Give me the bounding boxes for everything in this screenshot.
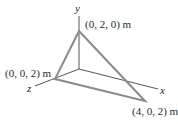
vertex-label-c: (4, 0, 2) m xyxy=(132,106,178,117)
coordinate-diagram: y x z (0, 2, 0) m (0, 0, 2) m (4, 0, 2) … xyxy=(0,0,178,124)
z-axis-label: z xyxy=(27,83,31,94)
y-axis-label: y xyxy=(75,3,80,14)
triangle xyxy=(55,31,145,101)
x-axis-label: x xyxy=(160,85,165,96)
vertex-label-a: (0, 2, 0) m xyxy=(85,19,131,30)
vertex-label-b: (0, 0, 2) m xyxy=(5,68,51,79)
